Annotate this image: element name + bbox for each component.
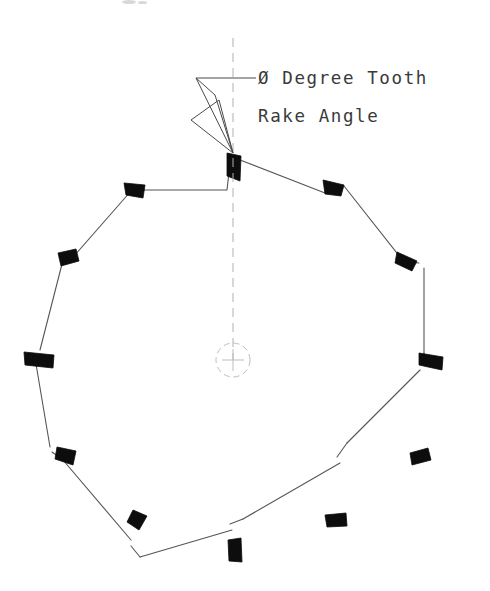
back-slope-9: [40, 264, 62, 350]
tooth-carbide-tip: [55, 447, 76, 465]
back-slope-8: [36, 364, 50, 447]
back-slope-2: [344, 186, 404, 262]
tooth-carbide-tip: [227, 153, 241, 181]
arbor-center-mark: [216, 343, 250, 377]
tooth-carbide-tip: [395, 252, 417, 271]
gullet-top: [140, 172, 229, 190]
saw-blade-outline: [36, 160, 424, 557]
tooth-carbide-tip: [24, 352, 54, 368]
technical-drawing-canvas: Ø Degree Tooth Rake Angle: [0, 0, 490, 591]
rake-angle-leader: [191, 78, 256, 153]
leader-arrowhead-upper: [196, 78, 233, 153]
tooth-carbide-tip: [127, 510, 147, 530]
tooth-carbide-tip: [58, 249, 79, 266]
gullet-6: [131, 546, 140, 557]
back-slope-6: [140, 530, 232, 557]
back-slope-4: [347, 370, 420, 443]
back-slope-10: [74, 191, 131, 256]
annotation-line-2: Rake Angle: [258, 106, 379, 126]
back-slope-7: [63, 460, 131, 540]
tooth-carbide-tip: [419, 353, 443, 370]
tooth-carbide-tip: [410, 448, 431, 465]
saw-blade-drawing-svg: Ø Degree Tooth Rake Angle: [0, 0, 490, 591]
tooth-carbide-tip: [325, 513, 347, 527]
back-slope-5: [243, 463, 340, 519]
tooth-carbide-tip: [323, 180, 344, 196]
tooth-carbide-tip: [228, 538, 242, 562]
annotation-line-1: Ø Degree Tooth: [258, 68, 428, 88]
gullet-5: [230, 519, 243, 524]
leader-arrowhead-lower: [191, 100, 233, 153]
gullet-4: [337, 443, 347, 457]
back-slope-1: [240, 160, 325, 193]
